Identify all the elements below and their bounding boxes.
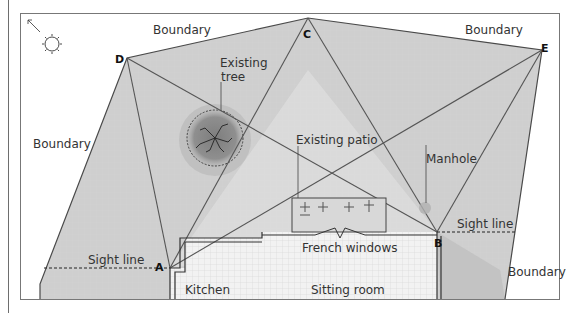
boundary-label-top-right: Boundary <box>465 23 523 37</box>
north-arrow-icon <box>28 20 40 32</box>
point-label-a: A <box>155 262 164 274</box>
point-label-c: C <box>303 29 311 41</box>
sight-line-left-label: Sight line <box>88 253 144 267</box>
existing-tree-label-line1: Existing <box>220 56 268 70</box>
boundary-label-bottom-right: Boundary <box>508 265 566 279</box>
point-label-e: E <box>541 43 549 55</box>
existing-tree-label-line2: tree <box>221 70 245 84</box>
boundary-label-left: Boundary <box>33 137 91 151</box>
garden-plan <box>0 0 571 313</box>
kitchen-label: Kitchen <box>185 283 230 297</box>
sun-icon <box>42 34 62 54</box>
point-label-d: D <box>115 54 124 66</box>
boundary-label-top-left: Boundary <box>153 23 211 37</box>
sight-line-right-label: Sight line <box>457 217 513 231</box>
existing-patio-label: Existing patio <box>296 133 378 147</box>
manhole-label: Manhole <box>426 152 477 166</box>
manhole <box>419 202 431 214</box>
sitting-room-label: Sitting room <box>311 283 385 297</box>
point-label-b: B <box>434 238 442 250</box>
french-windows-label: French windows <box>302 241 397 255</box>
